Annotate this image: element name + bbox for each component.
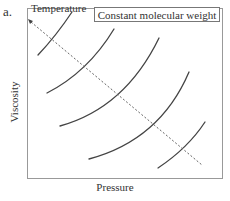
isotherm-curve-3: [60, 38, 159, 126]
x-axis-label: Pressure: [0, 181, 230, 193]
legend-box: Constant molecular weight: [94, 7, 220, 22]
temperature-arrow-line: [31, 22, 202, 165]
isotherm-curve-1: [38, 12, 72, 55]
isotherm-curve-4: [89, 72, 189, 159]
y-axis-label: Viscosity: [8, 62, 20, 142]
plot-area: [0, 0, 230, 201]
temperature-label: Temperature: [31, 2, 86, 14]
isotherm-curve-2: [47, 29, 114, 93]
